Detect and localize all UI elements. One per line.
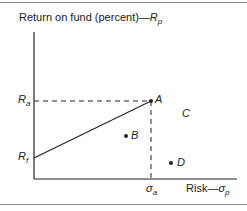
sigma-a-label: σa bbox=[146, 182, 157, 197]
diagram-canvas bbox=[0, 0, 247, 211]
x-axis-title: Risk—σp bbox=[186, 182, 229, 197]
point-b-label: B bbox=[131, 129, 138, 141]
point-d-dot bbox=[169, 161, 173, 165]
point-d-label: D bbox=[177, 156, 185, 168]
ra-label: Ra bbox=[18, 93, 30, 108]
point-c-label: C bbox=[182, 107, 190, 119]
point-b-dot bbox=[124, 134, 128, 138]
rf-label: Rf bbox=[18, 150, 28, 165]
point-a-dot bbox=[149, 99, 153, 103]
point-a-label: A bbox=[155, 93, 162, 105]
